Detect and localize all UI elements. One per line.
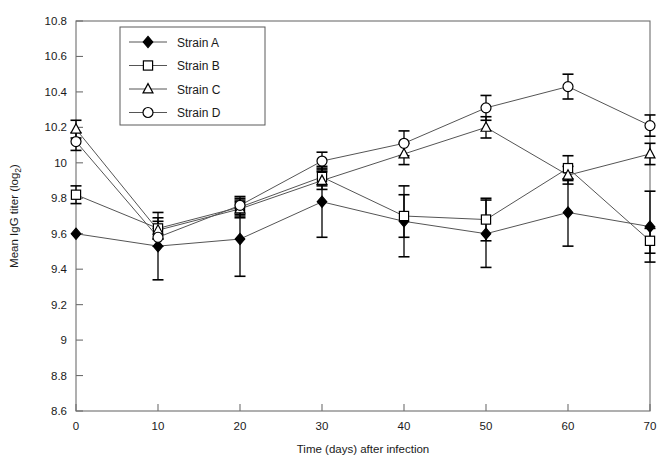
chart-figure: 8.68.899.29.49.69.81010.210.410.610.8 01… [0,0,662,461]
x-tick-label: 20 [234,420,247,432]
y-tick-label: 9.6 [51,228,67,240]
y-axis-ticks: 8.68.899.29.49.69.81010.210.410.610.8 [45,15,83,417]
data-point-filled-diamond [645,221,655,232]
legend-label: Strain A [177,36,219,50]
data-point-open-circle [645,121,655,131]
y-tick-label: 10.4 [45,86,68,98]
data-point-open-circle [481,103,491,113]
data-point-open-square [645,236,654,245]
data-point-open-triangle [71,124,81,133]
legend-label: Strain B [177,59,220,73]
x-tick-label: 0 [73,420,79,432]
y-tick-label: 10.8 [45,15,67,27]
data-point-open-circle [399,138,409,148]
data-point-open-square [481,215,490,224]
legend-label: Strain D [177,106,221,120]
y-tick-label: 10 [54,157,67,169]
data-point-open-circle [143,108,153,118]
data-point-filled-diamond [71,228,81,239]
chart-legend: Strain AStrain BStrain CStrain D [120,27,265,125]
data-point-open-triangle [645,149,655,158]
line-chart: 8.68.899.29.49.69.81010.210.410.610.8 01… [0,0,662,461]
x-tick-label: 30 [316,420,329,432]
y-tick-label: 9 [61,334,67,346]
x-axis-title: Time (days) after infection [297,443,430,455]
y-tick-label: 9.2 [51,299,67,311]
data-point-filled-diamond [317,196,327,207]
data-point-filled-diamond [235,233,245,244]
y-tick-label: 10.2 [45,121,67,133]
y-tick-label: 9.4 [51,263,68,275]
y-tick-label: 8.6 [51,405,67,417]
x-axis-ticks: 010203040506070 [73,404,657,432]
data-point-open-square [71,190,80,199]
y-axis-title: Mean IgG titer (log2) [8,164,23,268]
x-tick-label: 70 [644,420,657,432]
y-tick-label: 8.8 [51,370,67,382]
legend-label: Strain C [177,83,221,97]
x-tick-label: 50 [480,420,493,432]
data-point-filled-diamond [563,207,573,218]
x-tick-label: 10 [152,420,165,432]
data-point-open-circle [153,232,163,242]
y-tick-label: 9.8 [51,192,67,204]
x-tick-label: 60 [562,420,575,432]
data-point-open-circle [71,137,81,147]
data-point-filled-diamond [481,228,491,239]
data-point-open-circle [563,82,573,92]
data-point-open-square [143,61,152,70]
data-point-open-triangle [481,122,491,131]
data-point-open-square [399,211,408,220]
data-point-open-circle [235,200,245,210]
data-point-open-circle [317,156,327,166]
y-tick-label: 10.6 [45,50,67,62]
x-tick-label: 40 [398,420,411,432]
